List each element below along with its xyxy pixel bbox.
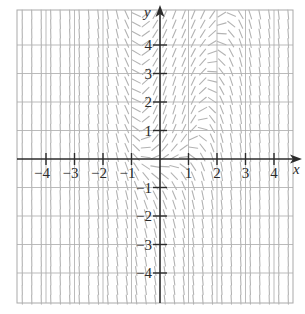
slope-segment [220,124,223,133]
x-tick-label: −1 [120,165,136,181]
slope-segment [250,181,251,190]
slope-segment [288,67,289,76]
slope-segment [250,219,251,228]
slope-segment [250,200,251,209]
slope-segment [142,164,150,169]
slope-segment [153,49,158,57]
slope-segment [211,153,214,162]
slope-segment [211,143,214,151]
slope-segment [221,276,222,285]
slope-segment [209,106,215,112]
slope-segment [163,191,167,199]
slope-segment [107,105,108,114]
y-tick-label: −3 [136,237,152,253]
slope-segment [202,210,203,219]
slope-segment [163,210,166,219]
slope-segment [230,115,232,124]
slope-segment [155,276,156,285]
slope-segment [231,238,232,247]
slope-segment [221,219,222,228]
slope-segment [250,124,251,133]
slope-segment [132,108,140,112]
slope-segment [116,105,118,114]
slope-segment [249,20,251,29]
slope-segment [107,20,108,29]
slope-segment [221,295,222,304]
slope-segment [79,10,80,19]
slope-segment [231,200,232,209]
slope-segment [88,10,89,19]
slope-segment [249,10,252,19]
slope-segment [126,210,128,219]
slope-segment [107,257,108,266]
y-tick-label: −2 [136,208,152,224]
slope-segment [183,257,184,266]
slope-segment [117,267,118,276]
slope-segment [193,229,194,238]
slope-segment [116,67,118,76]
slope-segment [182,115,185,123]
slope-segment [153,68,157,76]
slope-segment [88,96,89,105]
slope-segment [278,96,279,105]
slope-segment [239,48,242,57]
slope-segment [125,58,129,66]
slope-segment [125,77,129,85]
slope-segment [200,39,205,46]
slope-segment [278,58,279,67]
slope-segment [79,48,80,57]
slope-segment [173,191,176,199]
slope-segment [88,210,89,219]
slope-segment [79,67,80,76]
slope-segment [198,118,207,120]
slope-segment [164,238,166,247]
slope-segment [155,286,156,295]
slope-segment [231,257,232,266]
slope-segment [155,267,156,276]
slope-segment [219,59,225,65]
slope-segment [163,124,167,132]
slope-segment [200,59,206,66]
slope-segment [125,96,129,104]
slope-segment [79,143,80,152]
slope-segment [212,191,213,200]
slope-segment [191,106,195,114]
slope-segment [192,191,194,200]
slope-segment [153,20,158,28]
slope-segment [152,173,159,179]
slope-segment [107,153,108,162]
slope-segment [98,210,99,219]
slope-segment [220,105,223,113]
slope-segment [153,30,158,38]
slope-segment [126,181,128,190]
slope-segment [107,86,108,95]
slope-segment [88,48,89,57]
slope-segment [164,257,165,266]
slope-segment [249,67,251,76]
slope-segment [132,31,140,35]
slope-segment [98,115,99,124]
slope-segment [221,153,223,162]
x-tick-label: −3 [63,165,79,181]
slope-segment [79,238,80,247]
slope-segment [202,248,203,257]
slope-segment [151,166,160,168]
slope-segment [153,87,157,95]
slope-segment [79,286,80,295]
y-tick-label: 2 [145,94,153,110]
slope-segment [107,267,108,276]
slope-segment [250,86,251,95]
slope-segment [79,77,80,86]
slope-segment [107,229,108,238]
slope-segment [116,29,118,38]
slope-segment [192,210,194,219]
slope-segment [154,219,156,228]
slope-segment [191,58,195,66]
slope-segment [182,191,185,200]
slope-segment [182,105,185,114]
slope-segment [239,39,242,48]
slope-segment [79,124,80,133]
slope-segment [116,39,118,48]
slope-segment [117,257,118,266]
slope-segment [250,191,251,200]
